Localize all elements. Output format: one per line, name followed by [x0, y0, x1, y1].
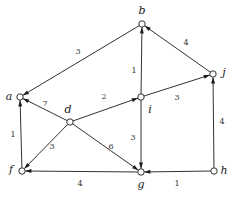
- node-label-i: i: [148, 103, 152, 116]
- node-a: [17, 94, 23, 100]
- node-g: [138, 169, 144, 175]
- edge-weight-f-a: 1: [10, 130, 15, 139]
- edge-g-to-f: [25, 171, 138, 172]
- edge-weight-i-g: 3: [130, 133, 135, 142]
- arrowhead-icon-b-to-a: [23, 90, 29, 95]
- node-i: [138, 94, 144, 100]
- edge-h-to-j: [213, 77, 214, 168]
- graph-canvas: abdfghij 3147231363441: [0, 0, 241, 200]
- edge-d-to-i: [73, 98, 138, 121]
- graph-figure: abdfghij 3147231363441: [0, 0, 241, 200]
- node-label-f: f: [8, 163, 15, 176]
- node-label-b: b: [138, 4, 145, 17]
- arrowhead-icon-g-to-f: [25, 169, 31, 173]
- arrowhead-icon-i-to-g: [139, 163, 143, 169]
- edge-b-to-a: [23, 26, 140, 96]
- arrowhead-icon-i-to-j: [203, 75, 210, 79]
- arrowhead-icon-i-to-b: [140, 27, 144, 33]
- edge-weight-labels-layer: 3147231363441: [10, 38, 224, 188]
- edge-f-to-a: [20, 100, 22, 168]
- edge-weight-i-b: 1: [131, 66, 136, 75]
- edge-weight-g-f: 4: [77, 179, 82, 188]
- node-label-j: j: [219, 66, 226, 79]
- edge-d-to-g: [73, 124, 139, 170]
- node-label-h: h: [220, 164, 227, 177]
- edge-weight-h-j: 4: [219, 117, 224, 126]
- edge-weight-d-g: 6: [108, 142, 113, 151]
- arrowheads-layer: [18, 26, 215, 174]
- arrowhead-icon-d-to-g: [132, 165, 138, 170]
- edge-d-to-f: [24, 124, 68, 168]
- edge-weight-b-a: 3: [75, 47, 80, 56]
- node-labels-layer: abdfghij: [6, 4, 228, 191]
- edge-weight-d-a: 7: [42, 99, 47, 108]
- arrowhead-icon-h-to-g: [144, 170, 150, 174]
- arrowhead-icon-j-to-b: [145, 26, 151, 31]
- node-label-d: d: [64, 103, 71, 116]
- node-f: [19, 168, 25, 174]
- edge-weight-h-g: 1: [174, 179, 179, 188]
- arrowhead-icon-h-to-j: [211, 77, 215, 83]
- arrowhead-icon-f-to-a: [18, 100, 22, 106]
- arrowhead-icon-d-to-i: [131, 98, 138, 102]
- node-d: [67, 119, 73, 125]
- edge-weight-d-f: 3: [49, 142, 54, 151]
- edge-weight-j-b: 4: [183, 38, 188, 47]
- node-j: [210, 71, 216, 77]
- node-label-a: a: [6, 90, 13, 103]
- edge-weight-i-j: 3: [174, 93, 179, 102]
- node-h: [211, 168, 217, 174]
- edge-h-to-g: [144, 171, 211, 172]
- edge-i-to-b: [141, 27, 142, 94]
- edge-weight-d-i: 2: [101, 92, 106, 101]
- node-b: [139, 21, 145, 27]
- arrowhead-icon-d-to-a: [23, 98, 29, 103]
- node-label-g: g: [137, 178, 144, 191]
- edge-j-to-b: [145, 26, 211, 72]
